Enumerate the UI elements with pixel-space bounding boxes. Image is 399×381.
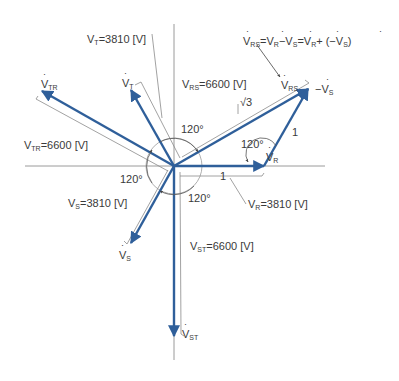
phasors xyxy=(42,89,308,336)
svg-text:·: · xyxy=(281,26,284,36)
angle-label-left: 120° xyxy=(120,173,143,185)
magnitude-brackets xyxy=(36,34,309,336)
svg-text:·: · xyxy=(283,70,286,80)
label-vtr-magnitude: VTR=6600 [V] xyxy=(24,139,88,152)
angle-label-top: 120° xyxy=(181,123,204,135)
vst-bracket xyxy=(180,172,184,336)
label-vr-magnitude: VR=3810 [V] xyxy=(248,198,308,211)
equation-leader-arrow xyxy=(257,45,280,77)
phasor-diagram: VRS=VR−VS=VR+ (−VS) ····· VT=3810 [V] VR… xyxy=(0,0,399,381)
svg-text:·: · xyxy=(246,26,249,36)
equation: VRS=VR−VS=VR+ (−VS) xyxy=(243,35,351,48)
svg-text:·: · xyxy=(43,69,46,79)
phasor-vtr xyxy=(42,91,174,166)
vr-leader xyxy=(230,178,246,204)
name-vtr: VTR xyxy=(41,78,58,91)
name-vst: VST xyxy=(182,328,199,341)
angle-label-bottom: 120° xyxy=(188,192,211,204)
label-vs-magnitude: VS=3810 [V] xyxy=(68,197,127,210)
label-vst-magnitude: VST=6600 [V] xyxy=(190,240,254,253)
vtr-bracket xyxy=(36,96,168,171)
name-vt: VT xyxy=(122,77,134,90)
label-vrs-magnitude: VRS=6600 [V] xyxy=(182,78,246,91)
label-vt-magnitude: VT=3810 [V] xyxy=(87,33,146,46)
svg-text:·: · xyxy=(326,74,329,84)
svg-text:·: · xyxy=(379,26,382,36)
name-neg-vs: −VS xyxy=(315,83,334,96)
svg-text:·: · xyxy=(336,26,339,36)
svg-text:·: · xyxy=(184,319,187,329)
ratio-one-base: 1 xyxy=(220,170,226,182)
name-vs: VS xyxy=(119,249,131,262)
name-vrs: VRS xyxy=(281,79,298,92)
vt-leader xyxy=(152,34,162,118)
phasor-diagram-canvas: VRS=VR−VS=VR+ (−VS) ····· VT=3810 [V] VR… xyxy=(0,0,399,381)
angle-label-right: 120° xyxy=(241,138,264,150)
ratio-one-side: 1 xyxy=(292,126,298,138)
svg-text:·: · xyxy=(268,142,271,152)
svg-text:·: · xyxy=(121,240,124,250)
name-vr: VR xyxy=(266,151,278,164)
svg-text:·: · xyxy=(124,68,127,78)
ratio-sqrt3: √3 xyxy=(240,96,252,108)
svg-text:·: · xyxy=(309,26,312,36)
